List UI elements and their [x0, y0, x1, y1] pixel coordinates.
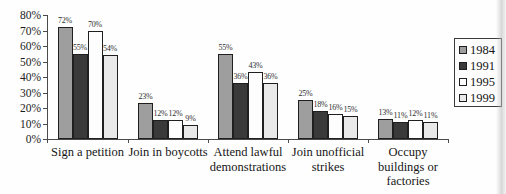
bar-1991-join-in-boycotts	[153, 120, 168, 139]
category-label-line: Occupy	[348, 145, 468, 160]
bar-1984-attend-lawful-demonstrations	[218, 54, 233, 139]
legend-swatch-1984	[459, 46, 467, 54]
y-tick-70	[43, 31, 47, 32]
y-tick-60	[43, 46, 47, 47]
plot-area: 0%10%20%30%40%50%60%70%80% 72%55%70%54%2…	[0, 0, 506, 194]
bar-value-1995-sign-a-petition: 70%	[82, 20, 108, 29]
bar-1995-join-in-boycotts	[168, 120, 183, 139]
x-tick-1	[128, 139, 129, 143]
y-tick-label-20: 20%	[0, 103, 41, 114]
bar-1984-occupy-buildings-or-factories	[378, 119, 393, 139]
y-tick-label-60: 60%	[0, 41, 41, 52]
x-tick-4	[368, 139, 369, 143]
bar-value-1984-sign-a-petition: 72%	[52, 16, 78, 25]
legend: 1984199119951999	[454, 38, 502, 107]
legend-item-1984: 1984	[459, 42, 501, 58]
x-axis	[47, 139, 448, 140]
y-tick-20	[43, 108, 47, 109]
bar-1995-occupy-buildings-or-factories	[408, 120, 423, 139]
bar-1991-join-unofficial-strikes	[313, 111, 328, 139]
legend-label-1999: 1999	[470, 92, 495, 105]
bar-1999-occupy-buildings-or-factories	[423, 122, 438, 139]
bar-value-1984-join-in-boycotts: 23%	[133, 92, 159, 101]
category-label-line: factories	[348, 174, 468, 189]
legend-item-1995: 1995	[459, 74, 501, 90]
bar-value-1999-sign-a-petition: 54%	[97, 44, 123, 53]
y-tick-80	[43, 15, 47, 16]
x-tick-0	[47, 139, 48, 143]
bar-value-1984-join-unofficial-strikes: 25%	[293, 89, 319, 98]
bar-value-1999-attend-lawful-demonstrations: 36%	[258, 72, 284, 81]
y-tick-40	[43, 77, 47, 78]
bar-1995-join-unofficial-strikes	[328, 114, 343, 139]
y-tick-label-70: 70%	[0, 26, 41, 37]
category-label-line: buildings or	[348, 160, 468, 175]
y-tick-label-50: 50%	[0, 57, 41, 68]
legend-label-1995: 1995	[470, 76, 495, 89]
y-tick-30	[43, 93, 47, 94]
y-tick-50	[43, 62, 47, 63]
bar-chart-figure: 0%10%20%30%40%50%60%70%80% 72%55%70%54%2…	[0, 0, 506, 194]
bar-1991-occupy-buildings-or-factories	[393, 122, 408, 139]
y-tick-label-10: 10%	[0, 119, 41, 130]
legend-swatch-1991	[459, 62, 467, 70]
legend-label-1984: 1984	[470, 44, 495, 57]
y-tick-10	[43, 124, 47, 125]
y-tick-label-30: 30%	[0, 88, 41, 99]
legend-swatch-1999	[459, 94, 467, 102]
bar-1999-attend-lawful-demonstrations	[263, 83, 278, 139]
legend-label-1991: 1991	[470, 60, 495, 73]
x-tick-2	[208, 139, 209, 143]
category-label-occupy-buildings-or-factories: Occupybuildings orfactories	[348, 145, 468, 189]
legend-item-1991: 1991	[459, 58, 501, 74]
bar-1991-attend-lawful-demonstrations	[233, 83, 248, 139]
y-tick-label-80: 80%	[0, 10, 41, 21]
legend-item-1999: 1999	[459, 90, 501, 106]
bar-1999-join-in-boycotts	[183, 125, 198, 139]
y-tick-label-40: 40%	[0, 72, 41, 83]
bar-1991-sign-a-petition	[73, 54, 88, 139]
bar-value-1984-attend-lawful-demonstrations: 55%	[213, 43, 239, 52]
bar-1999-sign-a-petition	[103, 55, 118, 139]
bar-value-1999-occupy-buildings-or-factories: 11%	[418, 111, 444, 120]
y-tick-label-0: 0%	[0, 134, 41, 145]
x-tick-3	[288, 139, 289, 143]
legend-swatch-1995	[459, 78, 467, 86]
y-axis	[47, 15, 48, 139]
bar-1999-join-unofficial-strikes	[343, 116, 358, 139]
x-tick-5	[448, 139, 449, 143]
bar-value-1999-join-unofficial-strikes: 15%	[338, 105, 364, 114]
bar-value-1995-attend-lawful-demonstrations: 43%	[243, 61, 269, 70]
bar-value-1999-join-in-boycotts: 9%	[178, 114, 204, 123]
bar-1995-attend-lawful-demonstrations	[248, 72, 263, 139]
